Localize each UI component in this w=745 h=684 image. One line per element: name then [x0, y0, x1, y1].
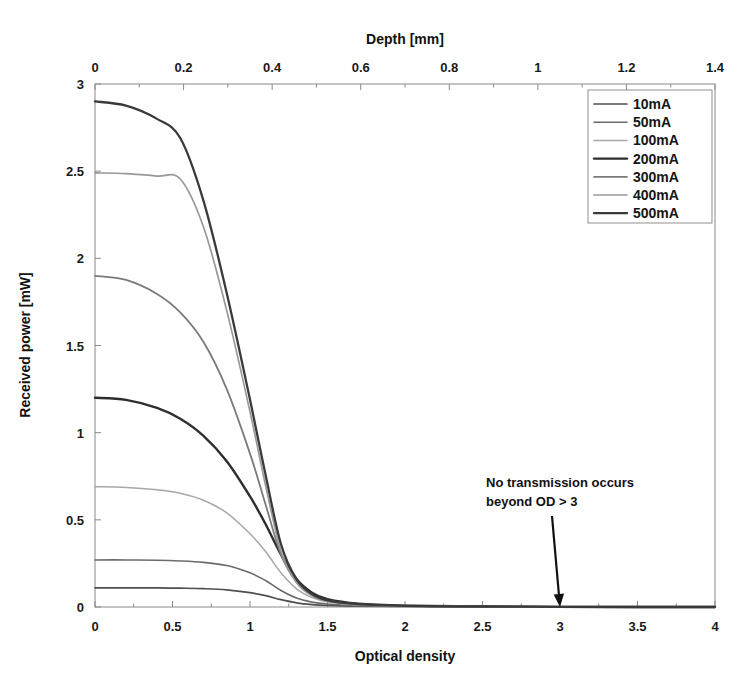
- chart-figure: Depth [mm] 00.20.40.60.811.21.4 00.511.5…: [0, 0, 745, 684]
- optical-density-axis-title: Optical density: [355, 648, 456, 664]
- depth-tick-label: 0.6: [352, 60, 370, 75]
- y-tick-label: 1: [77, 426, 84, 441]
- x-tick-label: 3.5: [628, 619, 646, 634]
- y-axis-tick-labels: 00.511.522.53: [66, 77, 84, 615]
- depth-axis-title: Depth [mm]: [366, 31, 444, 47]
- x-tick-label: 2.5: [473, 619, 491, 634]
- secondary-axis-title-group: Depth [mm]: [366, 31, 444, 47]
- curve-50ma: [95, 560, 715, 607]
- x-tick-label: 3: [556, 619, 563, 634]
- depth-tick-label: 0.2: [175, 60, 193, 75]
- annotation-arrow-head: [554, 594, 564, 607]
- curve-200ma: [95, 398, 715, 607]
- chart-canvas: Depth [mm] 00.20.40.60.811.21.4 00.511.5…: [0, 0, 745, 684]
- x-tick-label: 0.5: [163, 619, 181, 634]
- x-tick-label: 4: [711, 619, 719, 634]
- y-tick-label: 2.5: [66, 164, 84, 179]
- depth-axis-tick-labels: 00.20.40.60.811.21.4: [91, 60, 724, 75]
- depth-tick-label: 1: [534, 60, 541, 75]
- legend-label-300ma: 300mA: [633, 169, 679, 185]
- legend-label-500ma: 500mA: [633, 205, 679, 221]
- legend-label-100ma: 100mA: [633, 132, 679, 148]
- curve-300ma: [95, 276, 715, 607]
- x-tick-label: 0: [91, 619, 98, 634]
- legend-label-400ma: 400mA: [633, 187, 679, 203]
- curve-400ma: [95, 173, 715, 607]
- depth-axis-tickmarks: [95, 84, 715, 90]
- y-tick-label: 0.5: [66, 513, 84, 528]
- y-axis-tickmarks: [95, 84, 101, 607]
- depth-tick-label: 1.4: [706, 60, 725, 75]
- depth-tick-label: 0: [91, 60, 98, 75]
- received-power-axis-title: Received power [mW]: [17, 272, 33, 417]
- x-axis-tick-labels: 00.511.522.533.54: [91, 619, 719, 634]
- x-tick-label: 1: [246, 619, 253, 634]
- depth-tick-label: 0.8: [440, 60, 458, 75]
- annotation-line-2: beyond OD > 3: [486, 494, 577, 509]
- legend[interactable]: 10mA50mA100mA200mA300mA400mA500mA: [588, 90, 712, 223]
- depth-tick-label: 0.4: [263, 60, 282, 75]
- y-tick-label: 3: [77, 77, 84, 92]
- x-tick-label: 2: [401, 619, 408, 634]
- annotation-line-1: No transmission occurs: [486, 475, 634, 490]
- annotation-no-transmission: No transmission occurs beyond OD > 3: [486, 475, 634, 607]
- annotation-arrow-line: [552, 516, 559, 594]
- y-tick-label: 1.5: [66, 339, 84, 354]
- depth-tick-label: 1.2: [617, 60, 635, 75]
- legend-label-200ma: 200mA: [633, 151, 679, 167]
- y-tick-label: 2: [77, 251, 84, 266]
- legend-label-10ma: 10mA: [633, 96, 671, 112]
- legend-label-50ma: 50mA: [633, 114, 671, 130]
- x-tick-label: 1.5: [318, 619, 336, 634]
- y-tick-label: 0: [77, 600, 84, 615]
